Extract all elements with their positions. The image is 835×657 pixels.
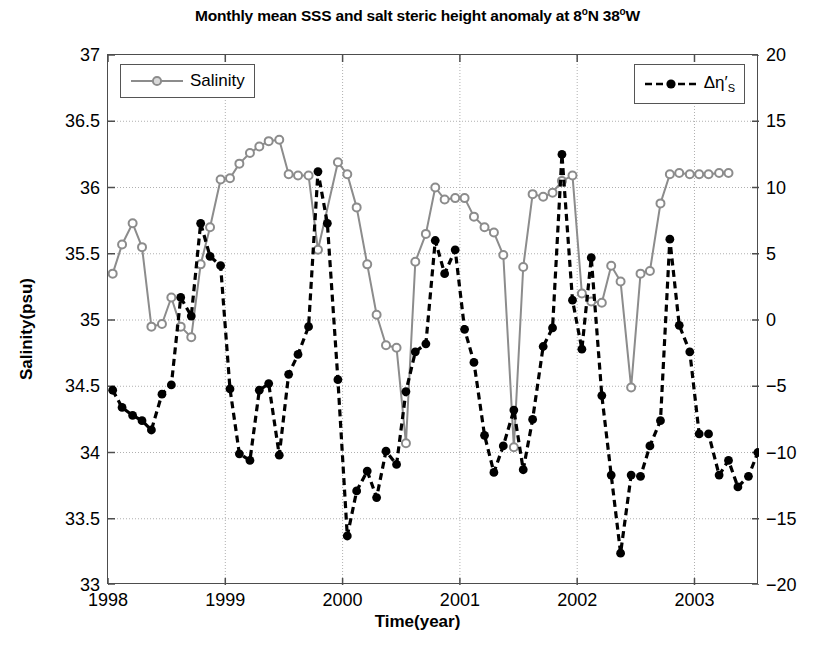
legend-salinity-label: Salinity <box>190 71 245 91</box>
y-tick-left-36.5: 36.5 <box>65 111 100 132</box>
x-tick-2001: 2001 <box>440 590 480 611</box>
y-tick-right-20: 20 <box>766 45 786 66</box>
y-tick-left-34.5: 34.5 <box>65 376 100 397</box>
y-tick-left-35: 35 <box>80 310 100 331</box>
y-tick-left-33.5: 33.5 <box>65 508 100 529</box>
title-text-a: Monthly mean SSS and salt steric height … <box>195 7 582 24</box>
y-axis-left-label: Salinity(psu) <box>17 179 37 479</box>
chart-canvas <box>108 55 759 585</box>
y-tick-left-36: 36 <box>80 177 100 198</box>
y-tick-left-35.5: 35.5 <box>65 243 100 264</box>
x-axis-label: Time(year) <box>0 612 835 632</box>
y-tick-right-0: 0 <box>766 310 776 331</box>
x-tick-2002: 2002 <box>557 590 597 611</box>
figure: Monthly mean SSS and salt steric height … <box>0 0 835 657</box>
y-tick-right--5: −5 <box>766 376 787 397</box>
y-tick-right-15: 15 <box>766 111 786 132</box>
y-tick-left-34: 34 <box>80 442 100 463</box>
y-tick-right--15: −15 <box>766 508 797 529</box>
y-tick-right--20: −20 <box>766 575 797 596</box>
legend-eta-label: Δη′S <box>704 73 735 94</box>
legend-eta-main: Δη′ <box>704 73 728 92</box>
y-tick-left-37: 37 <box>80 45 100 66</box>
x-tick-2003: 2003 <box>674 590 714 611</box>
chart-title: Monthly mean SSS and salt steric height … <box>0 6 835 25</box>
plot-area: Salinity Δη′S 3333.53434.53535.53636.537… <box>107 54 758 584</box>
legend-eta-sub: S <box>728 83 735 95</box>
legend-salinity[interactable]: Salinity <box>120 64 255 98</box>
y-tick-right--10: −10 <box>766 442 797 463</box>
title-text-c: W <box>626 7 640 24</box>
legend-salinity-swatch <box>130 74 184 88</box>
y-tick-right-5: 5 <box>766 243 776 264</box>
title-text-b: N 38 <box>588 7 620 24</box>
y-tick-right-10: 10 <box>766 177 786 198</box>
x-tick-2000: 2000 <box>323 590 363 611</box>
legend-eta[interactable]: Δη′S <box>634 64 745 104</box>
x-tick-1998: 1998 <box>88 590 128 611</box>
legend-eta-swatch <box>644 77 698 91</box>
x-tick-1999: 1999 <box>205 590 245 611</box>
